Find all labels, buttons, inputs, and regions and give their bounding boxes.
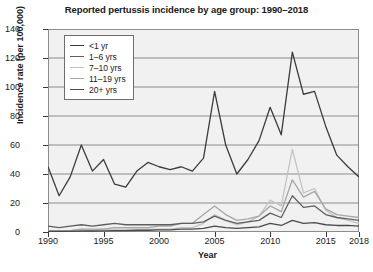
y-tick-mark — [43, 29, 48, 30]
y-tick-mark — [43, 203, 48, 204]
y-tick-label: 140 — [0, 24, 20, 34]
legend-item[interactable]: 7–10 yrs — [70, 62, 126, 73]
x-tick-label: 2018 — [349, 236, 369, 246]
y-tick-mark — [43, 174, 48, 175]
x-tick-mark — [104, 232, 105, 237]
y-axis-label: Incidence rate (per 100,000) — [15, 0, 25, 145]
x-tick-mark — [270, 232, 271, 237]
legend-swatch-icon — [70, 67, 84, 68]
x-tick-label: 2010 — [260, 236, 280, 246]
x-tick-mark — [48, 232, 49, 237]
legend-label: <1 yr — [89, 41, 108, 51]
legend-swatch-icon — [70, 78, 84, 79]
x-axis-label: Year — [48, 250, 367, 260]
x-tick-mark — [159, 232, 160, 237]
y-tick-label: 40 — [0, 169, 20, 179]
y-tick-mark — [43, 58, 48, 59]
y-tick-label: 0 — [0, 227, 20, 237]
legend-swatch-icon — [70, 56, 84, 57]
y-tick-mark — [43, 116, 48, 117]
x-tick-label: 2000 — [149, 236, 169, 246]
y-tick-mark — [43, 145, 48, 146]
x-tick-mark — [326, 232, 327, 237]
legend-swatch-icon — [70, 45, 84, 46]
chart-legend: <1 yr1–6 yrs7–10 yrs11–19 yrs20+ yrs — [64, 35, 134, 100]
legend-label: 7–10 yrs — [89, 63, 122, 73]
y-tick-label: 80 — [0, 111, 20, 121]
x-tick-label: 2015 — [316, 236, 336, 246]
y-tick-label: 60 — [0, 140, 20, 150]
x-tick-label: 1995 — [94, 236, 114, 246]
y-tick-label: 120 — [0, 53, 20, 63]
legend-label: 20+ yrs — [89, 85, 117, 95]
legend-item[interactable]: 1–6 yrs — [70, 51, 126, 62]
series-line — [48, 149, 359, 230]
legend-label: 1–6 yrs — [89, 52, 117, 62]
x-tick-mark — [359, 232, 360, 237]
legend-swatch-icon — [70, 89, 84, 90]
x-tick-mark — [215, 232, 216, 237]
legend-item[interactable]: <1 yr — [70, 40, 126, 51]
legend-label: 11–19 yrs — [89, 74, 126, 84]
x-tick-label: 2005 — [205, 236, 225, 246]
legend-item[interactable]: 20+ yrs — [70, 84, 126, 95]
chart-figure: Reported pertussis incidence by age grou… — [0, 0, 373, 272]
y-tick-label: 100 — [0, 82, 20, 92]
y-tick-label: 20 — [0, 198, 20, 208]
chart-title: Reported pertussis incidence by age grou… — [0, 4, 373, 15]
legend-item[interactable]: 11–19 yrs — [70, 73, 126, 84]
y-tick-mark — [43, 87, 48, 88]
x-tick-label: 1990 — [38, 236, 58, 246]
